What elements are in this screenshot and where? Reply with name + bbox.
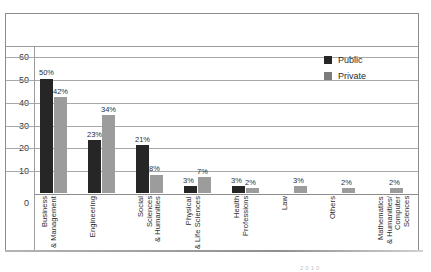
category-label: Law <box>281 196 290 210</box>
category-label: Physical & Life Sciences <box>185 196 202 249</box>
caption-fragment: 2010 <box>300 265 321 270</box>
page-edge-shadow <box>5 250 423 252</box>
y-axis-rule-30 <box>6 126 34 127</box>
bar-public[interactable] <box>184 186 197 193</box>
bar-value-label: 34% <box>101 106 116 114</box>
bar-value-label: 2% <box>245 179 256 187</box>
private-swatch-icon <box>324 72 332 80</box>
category-label: Engineering <box>89 196 98 237</box>
y-axis: 6050403020100 <box>6 47 35 250</box>
legend-label-public: Public <box>338 56 363 65</box>
y-axis-rule-20 <box>6 148 34 149</box>
bar-value-label: 7% <box>197 168 208 176</box>
chart-frame: 6050403020100 50%42%23%34%21%8%3%7%3%2%3… <box>5 13 419 251</box>
category-axis-labels: Business & ManagementEngineeringSocial S… <box>35 194 418 250</box>
bar-private[interactable] <box>342 188 355 193</box>
y-axis-rule-60 <box>6 57 34 58</box>
legend-label-private: Private <box>338 72 366 81</box>
bar-public[interactable] <box>40 79 53 193</box>
category-label: Mathematics & Humanities/ Computer Scien… <box>377 196 411 250</box>
category-label: Health Professions <box>233 196 250 250</box>
bar-private[interactable] <box>150 175 163 193</box>
bar-public[interactable] <box>232 186 245 193</box>
bar-value-label: 3% <box>183 177 194 185</box>
y-axis-rule-50 <box>6 80 34 81</box>
bar-value-label: 21% <box>135 136 150 144</box>
legend-item-public[interactable]: Public <box>324 52 402 68</box>
bar-private[interactable] <box>54 97 67 193</box>
bar-private[interactable] <box>294 186 307 193</box>
bar-private[interactable] <box>198 177 211 193</box>
bar-value-label: 2% <box>341 179 352 187</box>
legend-item-private[interactable]: Private <box>324 68 402 84</box>
bar-value-label: 50% <box>39 69 54 77</box>
bar-private[interactable] <box>390 188 403 193</box>
bar-value-label: 8% <box>149 165 160 173</box>
bar-value-label: 2% <box>389 179 400 187</box>
category-label: Business & Management <box>41 196 58 248</box>
y-axis-rule-40 <box>6 103 34 104</box>
bar-public[interactable] <box>136 145 149 193</box>
y-axis-tick-0: 0 <box>24 199 29 208</box>
category-label: Others <box>329 196 338 219</box>
bar-value-label: 42% <box>53 88 68 96</box>
bar-value-label: 23% <box>87 131 102 139</box>
y-axis-rule-10 <box>6 171 34 172</box>
bar-public[interactable] <box>88 140 101 193</box>
bar-value-label: 3% <box>231 177 242 185</box>
chart-legend: Public Private <box>324 52 402 84</box>
category-label: Social Sciences & Humanities <box>137 196 163 250</box>
public-swatch-icon <box>324 56 332 64</box>
bar-value-label: 3% <box>293 177 304 185</box>
bar-private[interactable] <box>102 115 115 193</box>
bar-private[interactable] <box>246 188 259 193</box>
chart-header-band <box>6 14 418 47</box>
